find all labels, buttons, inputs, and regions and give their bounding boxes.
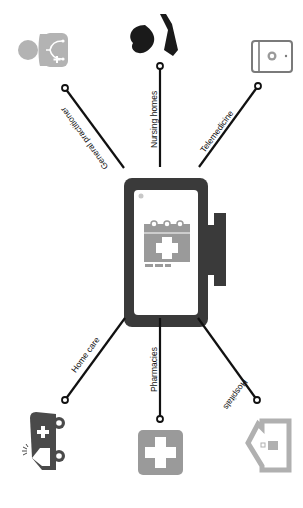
spoke-label: Home care	[69, 335, 102, 375]
spoke-label: Telemedicine	[198, 108, 235, 154]
connector-node	[157, 63, 163, 69]
connector-node	[255, 83, 261, 89]
spoke-hospitals: Hospitals	[198, 318, 260, 412]
spoke-label: Hospitals	[221, 378, 250, 412]
connector-node	[62, 85, 68, 91]
spoke-label: Nursing homes	[149, 91, 159, 148]
spoke-label: Pharmacies	[149, 347, 159, 392]
doctor-stethoscope-icon	[18, 33, 68, 67]
center-device	[124, 178, 226, 327]
connector-line	[65, 318, 125, 400]
camera-icon	[139, 194, 144, 199]
connector-node	[254, 397, 260, 403]
spoke-home-care: Home care	[62, 318, 125, 403]
spoke-telemedicine: Telemedicine	[198, 83, 261, 167]
pharmacy-cross-icon	[138, 430, 183, 475]
connector-node	[62, 397, 68, 403]
video-call-tablet-icon	[252, 41, 292, 72]
healthcare-hub-diagram: General practitioner Nursing homes Telem…	[0, 0, 303, 508]
hospital-building-icon	[248, 421, 289, 470]
connector-line	[198, 318, 257, 400]
ambulance-icon	[22, 412, 65, 470]
spoke-general-practitioner: General practitioner	[58, 85, 124, 171]
connector-node	[157, 416, 163, 422]
spoke-nursing-homes: Nursing homes	[149, 63, 163, 167]
heart-in-hand-icon	[130, 14, 178, 56]
calendar-cross-icon	[144, 221, 190, 267]
connector-line	[199, 86, 258, 167]
spoke-pharmacies: Pharmacies	[149, 318, 163, 422]
